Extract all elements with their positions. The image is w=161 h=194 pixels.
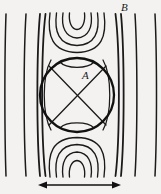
- field-line-cap-bottom-4: [69, 161, 84, 178]
- label-inner-region-A: A: [82, 70, 89, 81]
- field-line-hug-right-1: [121, 14, 124, 176]
- field-line-inner-arc-bottom: [60, 123, 94, 128]
- deflected-lines-bottom-group: [49, 138, 105, 178]
- field-line-outer-right-2: [155, 14, 157, 176]
- deflected-lines-top-group: [49, 13, 105, 53]
- field-line-inner-arc-top: [60, 62, 94, 67]
- field-line-figure: B A: [0, 0, 161, 194]
- arrow-head-left: [38, 181, 47, 188]
- compressed-field-lines-group: [37, 14, 123, 176]
- field-line-outer-left-1: [5, 14, 6, 176]
- field-line-canvas: [0, 0, 161, 194]
- field-line-cap-top-4: [69, 13, 84, 30]
- field-line-cap-top-3: [63, 13, 92, 38]
- field-line-hug-right-2: [116, 14, 119, 176]
- interior-cross-group: [49, 66, 106, 125]
- label-outer-field-B: B: [121, 2, 128, 13]
- arrow-head-right: [112, 181, 121, 188]
- field-line-outer-left-2: [24, 14, 26, 176]
- width-dimension-arrow: [38, 181, 121, 188]
- field-line-outer-right-1: [135, 14, 137, 176]
- outer-field-lines-group: [5, 14, 157, 176]
- field-line-cap-bottom-3: [63, 152, 92, 177]
